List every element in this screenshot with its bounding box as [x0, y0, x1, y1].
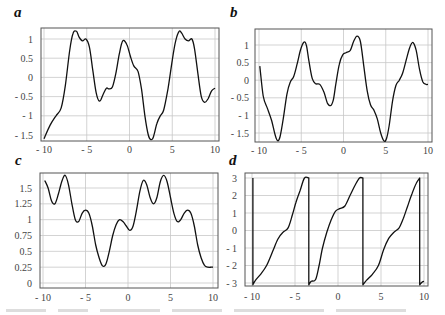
data-curve: [253, 177, 424, 285]
x-tick-label: 0: [127, 144, 132, 155]
x-tick-label: 5: [383, 145, 388, 156]
y-tick-label: - 1.5: [231, 128, 249, 139]
y-tick-label: 0: [27, 278, 32, 289]
chart-panel-c: - 10- 505101.51.2510.750.50.250: [15, 173, 219, 303]
y-tick-label: 1: [232, 208, 237, 219]
y-tick-label: 0: [232, 225, 237, 236]
y-tick-label: 0.5: [21, 53, 34, 64]
charts-canvas: - 10- 5051010.50- 0.5- 1- 1.5- 10- 50510…: [0, 0, 445, 315]
plot-frame: [41, 28, 219, 141]
x-tick-label: - 10: [36, 144, 52, 155]
y-tick-label: 1.5: [20, 183, 33, 194]
y-tick-label: 0: [28, 72, 33, 83]
x-tick-label: 5: [168, 292, 173, 303]
y-tick-label: - 0.5: [15, 91, 33, 102]
x-tick-label: 10: [208, 292, 218, 303]
x-tick-label: 10: [419, 291, 429, 302]
chart-panel-b: - 10- 5051010.50- 0.5- 1- 1.5: [231, 29, 433, 156]
y-tick-label: - 1.5: [15, 130, 33, 141]
x-tick-label: - 10: [35, 292, 51, 303]
y-tick-label: - 3: [226, 278, 237, 289]
x-tick-label: 5: [170, 144, 175, 155]
y-tick-label: 0.75: [15, 230, 33, 241]
y-tick-label: 0: [244, 75, 249, 86]
y-tick-label: - 0.5: [231, 92, 249, 103]
x-tick-label: - 10: [251, 145, 267, 156]
chart-panel-d: - 10- 505103210- 1- 2- 3: [226, 173, 429, 303]
y-tick-label: 1: [244, 40, 249, 51]
plot-frame: [245, 173, 428, 286]
y-tick-label: - 1: [22, 110, 33, 121]
x-tick-label: - 10: [244, 291, 260, 302]
y-tick-label: 0.5: [20, 246, 33, 257]
x-tick-label: - 5: [81, 144, 92, 155]
data-curve: [45, 175, 213, 267]
y-tick-label: 0.5: [237, 57, 250, 68]
y-tick-label: - 1: [226, 243, 237, 254]
y-tick-label: 1: [27, 214, 32, 225]
x-tick-label: - 5: [80, 292, 91, 303]
x-tick-label: 0: [336, 291, 341, 302]
x-tick-label: 0: [341, 145, 346, 156]
y-tick-label: - 1: [238, 110, 249, 121]
y-tick-label: 0.25: [15, 262, 33, 273]
y-tick-label: 1: [28, 34, 33, 45]
chart-panel-a: - 10- 5051010.50- 0.5- 1- 1.5: [15, 28, 220, 155]
x-tick-label: - 5: [296, 145, 307, 156]
y-tick-label: 2: [232, 190, 237, 201]
y-tick-label: 3: [232, 173, 237, 184]
x-tick-label: 0: [126, 292, 131, 303]
y-tick-label: 1.25: [15, 198, 33, 209]
x-tick-label: - 5: [290, 291, 301, 302]
figure-caption-faded: [0, 306, 445, 315]
x-tick-label: 10: [423, 145, 433, 156]
x-tick-label: 5: [379, 291, 384, 302]
x-tick-label: 10: [210, 144, 220, 155]
y-tick-label: - 2: [226, 260, 237, 271]
